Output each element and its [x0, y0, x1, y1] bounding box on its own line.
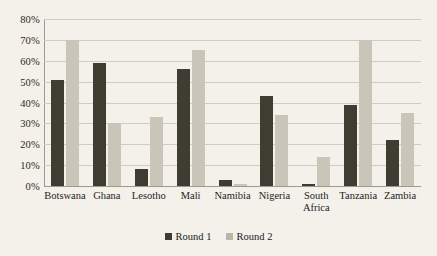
- bar[interactable]: [359, 40, 372, 186]
- plot-area: [44, 19, 421, 186]
- x-axis-label: Nigeria: [253, 190, 295, 213]
- x-axis-label: Mali: [170, 190, 212, 213]
- legend-label: Round 2: [237, 231, 273, 242]
- y-axis-tick-label: 50%: [2, 76, 40, 87]
- bar[interactable]: [135, 169, 148, 186]
- legend-item[interactable]: Round 1: [165, 231, 212, 242]
- bar[interactable]: [386, 140, 399, 186]
- y-axis-tick-label: 0%: [2, 181, 40, 192]
- bar[interactable]: [51, 80, 64, 186]
- y-axis-tick-label: 40%: [2, 97, 40, 108]
- bar[interactable]: [93, 63, 106, 186]
- bar[interactable]: [108, 123, 121, 186]
- y-axis-tick-label: 30%: [2, 118, 40, 129]
- x-axis-label: Tanzania: [337, 190, 379, 213]
- bar[interactable]: [66, 40, 79, 186]
- bar[interactable]: [192, 50, 205, 186]
- legend-label: Round 1: [176, 231, 212, 242]
- bar-group: [86, 19, 128, 186]
- bar[interactable]: [177, 69, 190, 186]
- x-axis-label: Zambia: [379, 190, 421, 213]
- y-axis-tick-label: 80%: [2, 14, 40, 25]
- bar[interactable]: [344, 105, 357, 186]
- axis-baseline: [44, 186, 421, 187]
- bar-group: [44, 19, 86, 186]
- bar[interactable]: [150, 117, 163, 186]
- y-axis-tick-label: 60%: [2, 55, 40, 66]
- y-axis-tick-label: 70%: [2, 34, 40, 45]
- y-axis-tick-label: 10%: [2, 160, 40, 171]
- y-axis-tick-label: 20%: [2, 139, 40, 150]
- legend-item[interactable]: Round 2: [226, 231, 273, 242]
- bar-groups: [44, 19, 421, 186]
- bar-group: [170, 19, 212, 186]
- bar[interactable]: [302, 184, 315, 186]
- bar[interactable]: [234, 184, 247, 186]
- chart-legend: Round 1Round 2: [0, 231, 437, 242]
- x-axis-label: South Africa: [295, 190, 337, 213]
- bar-group: [295, 19, 337, 186]
- bar[interactable]: [401, 113, 414, 186]
- bar-chart: 80%70%60%50%40%30%20%10%0% BotswanaGhana…: [0, 0, 437, 256]
- legend-swatch-icon: [226, 233, 233, 240]
- x-axis-category-labels: BotswanaGhanaLesothoMaliNamibiaNigeriaSo…: [44, 190, 421, 213]
- bar-group: [379, 19, 421, 186]
- x-axis-label: Namibia: [212, 190, 254, 213]
- x-axis-label: Ghana: [86, 190, 128, 213]
- bar[interactable]: [317, 157, 330, 186]
- x-axis-label: Lesotho: [128, 190, 170, 213]
- bar-group: [253, 19, 295, 186]
- bar-group: [337, 19, 379, 186]
- bar[interactable]: [219, 180, 232, 186]
- y-axis-tick-labels: 80%70%60%50%40%30%20%10%0%: [0, 19, 40, 186]
- bar-group: [128, 19, 170, 186]
- bar[interactable]: [260, 96, 273, 186]
- bar[interactable]: [275, 115, 288, 186]
- x-axis-label: Botswana: [44, 190, 86, 213]
- legend-swatch-icon: [165, 233, 172, 240]
- bar-group: [212, 19, 254, 186]
